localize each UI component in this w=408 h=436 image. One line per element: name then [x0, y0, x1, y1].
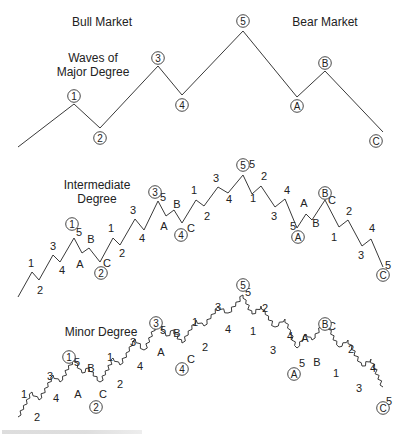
marker-text: 5	[240, 16, 246, 27]
minor-label: 2	[202, 341, 208, 353]
minor-label: 4	[370, 362, 376, 374]
marker-text: A	[294, 101, 301, 112]
marker-text: 2	[98, 268, 104, 279]
marker-text: 1	[69, 219, 75, 230]
major-marker-c: C	[370, 135, 383, 148]
intermediate-label: 4	[139, 232, 145, 244]
intermediate-label: 2	[37, 284, 43, 296]
intermediate-label: 4	[284, 184, 290, 196]
major-degree-label-line1: Waves of	[68, 51, 118, 65]
major-marker-4: 4	[176, 99, 189, 112]
intermediate-label: 1	[250, 192, 256, 204]
major-marker-b: B	[319, 57, 332, 70]
major-marker-3: 3	[152, 52, 165, 65]
intermediate-marker-5: 5	[237, 159, 250, 172]
intermediate-marker-4: 4	[175, 229, 188, 242]
intermediate-label: 4	[59, 264, 65, 276]
major-marker-5: 5	[237, 15, 250, 28]
minor-label: 3	[356, 382, 362, 394]
major-degree-label-line2: Major Degree	[57, 65, 130, 79]
intermediate-label: 2	[119, 247, 125, 259]
marker-text: 3	[155, 53, 161, 64]
intermediate-degree-label-line2: Degree	[77, 192, 117, 206]
intermediate-marker-2: 2	[95, 267, 108, 280]
major-marker-2: 2	[94, 132, 107, 145]
intermediate-label: 1	[108, 222, 114, 234]
intermediate-label: 4	[369, 222, 375, 234]
minor-label: B	[313, 356, 320, 368]
marker-text: B	[322, 58, 329, 69]
intermediate-label: 2	[261, 170, 267, 182]
intermediate-marker-c: C	[377, 269, 390, 282]
intermediate-label: 2	[204, 210, 210, 222]
intermediate-label: 5	[249, 158, 255, 170]
major-marker-1: 1	[68, 90, 81, 103]
bull-market-title: Bull Market	[72, 15, 133, 29]
minor-label: 2	[348, 343, 354, 355]
minor-label: C	[99, 388, 107, 400]
intermediate-label: B	[87, 233, 94, 245]
minor-label: 3	[270, 344, 276, 356]
intermediate-label: B	[173, 198, 180, 210]
marker-text: 4	[178, 230, 184, 241]
intermediate-label: 1	[191, 184, 197, 196]
marker-text: A	[295, 232, 302, 243]
minor-label: A	[74, 388, 82, 400]
marker-text: C	[372, 136, 379, 147]
minor-label: 3	[47, 370, 53, 382]
minor-label: B	[173, 327, 180, 339]
minor-label: 2	[262, 302, 268, 314]
marker-text: 2	[97, 133, 103, 144]
intermediate-label: 3	[271, 210, 277, 222]
intermediate-marker-1: 1	[66, 218, 79, 231]
minor-label: B	[87, 362, 94, 374]
marker-text: B	[322, 188, 329, 199]
minor-label: 1	[250, 325, 256, 337]
intermediate-label: 3	[358, 249, 364, 261]
minor-marker-5: 5	[237, 279, 250, 292]
marker-text: 1	[71, 91, 77, 102]
intermediate-label: 1	[331, 231, 337, 243]
intermediate-label: A	[160, 220, 168, 232]
marker-text: B	[322, 319, 329, 330]
minor-marker-3: 3	[150, 317, 163, 330]
minor-label: 1	[21, 388, 27, 400]
minor-marker-c: C	[377, 402, 390, 415]
figure-caption-cropped	[2, 430, 142, 434]
minor-label: 4	[137, 360, 143, 372]
marker-text: 2	[93, 402, 99, 413]
minor-marker-1: 1	[63, 351, 76, 364]
elliott-wave-diagram: Bull Market Bear Market Waves of Major D…	[0, 0, 408, 436]
bear-market-title: Bear Market	[292, 15, 358, 29]
intermediate-degree-label-line1: Intermediate	[64, 178, 131, 192]
minor-label: 4	[225, 323, 231, 335]
minor-degree-label: Minor Degree	[65, 325, 138, 339]
minor-label: 1	[192, 316, 198, 328]
marker-text: 3	[153, 318, 159, 329]
minor-label: C	[187, 353, 195, 365]
intermediate-label: 3	[213, 172, 219, 184]
minor-marker-2: 2	[90, 401, 103, 414]
marker-text: 1	[66, 352, 72, 363]
marker-text: 4	[179, 364, 185, 375]
marker-text: 5	[240, 280, 246, 291]
marker-text: 5	[240, 160, 246, 171]
marker-text: A	[291, 369, 298, 380]
intermediate-marker-b: B	[319, 187, 332, 200]
minor-label: A	[157, 346, 165, 358]
minor-label: 3	[215, 301, 221, 313]
marker-text: 4	[179, 100, 185, 111]
minor-label: 3	[130, 336, 136, 348]
minor-label: 2	[34, 411, 40, 423]
minor-label: 2	[117, 378, 123, 390]
intermediate-label: B	[312, 217, 319, 229]
minor-marker-4: 4	[176, 363, 189, 376]
intermediate-label: 3	[130, 204, 136, 216]
marker-text: C	[379, 270, 386, 281]
intermediate-label: 2	[346, 205, 352, 217]
intermediate-label: 3	[50, 240, 56, 252]
minor-label: 5	[299, 357, 305, 369]
major-wave-line	[18, 31, 383, 147]
marker-text: C	[379, 403, 386, 414]
major-marker-a: A	[291, 100, 304, 113]
